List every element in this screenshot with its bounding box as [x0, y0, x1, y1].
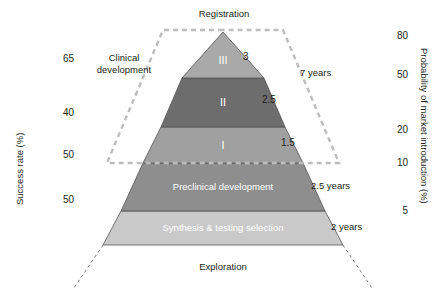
clinical-development-label: Clinical development	[84, 52, 164, 77]
right-axis-value-1: 80	[382, 30, 408, 43]
tier-shape-phase-1	[143, 127, 303, 163]
extension-line-right	[343, 245, 372, 288]
clinical-development-line-1: Clinical	[109, 52, 140, 63]
right-axis-value-3: 20	[382, 124, 408, 137]
tier-shape-phase-3	[182, 32, 264, 78]
left-axis-value-4: 50	[48, 194, 74, 207]
tier-shape-synthesis	[103, 211, 343, 245]
exploration-label: Exploration	[185, 261, 261, 273]
left-axis-value-1: 65	[48, 53, 74, 66]
tier-duration-phase-3: 3	[243, 51, 249, 64]
right-axis-value-5: 5	[382, 205, 408, 218]
extension-line-left	[74, 245, 103, 288]
tier-duration-preclinical: 2.5 years	[311, 180, 350, 192]
tier-duration-phase-2: 2.5	[262, 94, 276, 107]
left-axis-title: Success rate (%)	[14, 133, 26, 205]
registration-label: Registration	[186, 8, 262, 20]
clinical-development-duration: 7 years	[300, 67, 331, 79]
clinical-development-line-2: development	[97, 64, 151, 75]
right-axis-title: Probability of market introduction (%)	[418, 48, 430, 204]
left-axis-value-2: 40	[48, 107, 74, 120]
right-axis-value-2: 50	[382, 69, 408, 82]
tier-duration-phase-1: 1.5	[281, 137, 295, 150]
tier-shape-preclinical	[121, 163, 325, 211]
tier-duration-synthesis: 2 years	[331, 221, 362, 233]
pyramid-figure: Registration Exploration Success rate (%…	[0, 0, 446, 298]
right-axis-value-4: 10	[382, 157, 408, 170]
left-axis-value-3: 50	[48, 149, 74, 162]
